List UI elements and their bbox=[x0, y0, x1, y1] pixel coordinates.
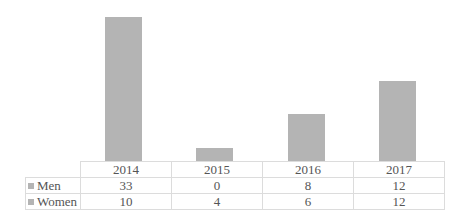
women-value-2015: 4 bbox=[172, 194, 263, 210]
bar-women-2015 bbox=[196, 148, 233, 161]
table-row-men: Men 33 0 8 12 bbox=[26, 178, 445, 194]
bar-men-2016 bbox=[288, 134, 325, 161]
women-value-2017: 12 bbox=[354, 194, 445, 210]
stacked-bar-chart: 2014 2015 2016 2017 Men 33 0 8 12 Women … bbox=[0, 0, 463, 222]
legend-swatch-women-icon bbox=[28, 199, 34, 205]
series-label-women: Women bbox=[26, 194, 81, 210]
series-name-men: Men bbox=[37, 178, 61, 193]
series-name-women: Women bbox=[37, 194, 77, 209]
table-header-row: 2014 2015 2016 2017 bbox=[26, 162, 445, 178]
women-value-2014: 10 bbox=[81, 194, 172, 210]
bar-women-2014 bbox=[105, 17, 142, 51]
women-value-2016: 6 bbox=[263, 194, 354, 210]
category-header-2014: 2014 bbox=[81, 162, 172, 178]
men-value-2017: 12 bbox=[354, 178, 445, 194]
table-row-women: Women 10 4 6 12 bbox=[26, 194, 445, 210]
category-header-2016: 2016 bbox=[263, 162, 354, 178]
men-value-2014: 33 bbox=[81, 178, 172, 194]
men-value-2016: 8 bbox=[263, 178, 354, 194]
category-header-2017: 2017 bbox=[354, 162, 445, 178]
bar-women-2017 bbox=[379, 81, 416, 121]
legend-swatch-men-icon bbox=[28, 183, 34, 189]
plot-area bbox=[78, 0, 443, 161]
table-corner-cell bbox=[26, 162, 81, 178]
bar-men-2017 bbox=[379, 121, 416, 161]
men-value-2015: 0 bbox=[172, 178, 263, 194]
data-table: 2014 2015 2016 2017 Men 33 0 8 12 Women … bbox=[25, 161, 445, 210]
bar-men-2014 bbox=[105, 50, 142, 161]
series-label-men: Men bbox=[26, 178, 81, 194]
bar-women-2016 bbox=[288, 114, 325, 134]
category-header-2015: 2015 bbox=[172, 162, 263, 178]
